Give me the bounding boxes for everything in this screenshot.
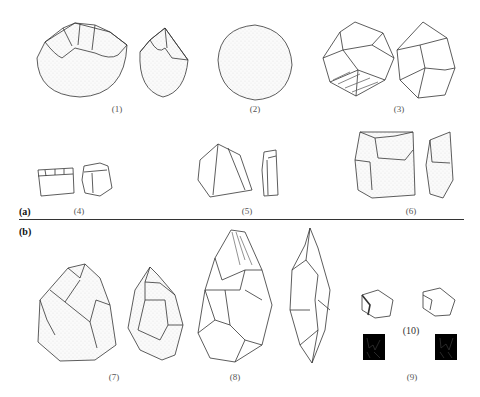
item-label-5: (5) <box>242 206 253 216</box>
item-label-6: (6) <box>406 206 417 216</box>
item-label-10: (10) <box>403 325 420 336</box>
panel-divider <box>19 219 464 220</box>
tool-5-flake <box>198 144 278 197</box>
tool-1-chopper <box>37 23 188 97</box>
panel-label-a: (a) <box>19 206 31 217</box>
item-label-3: (3) <box>394 104 405 114</box>
tool-7-handaxe <box>38 264 183 361</box>
item-label-7: (7) <box>109 372 120 382</box>
tool-8-handaxe <box>198 228 330 363</box>
stone-tools-figure: (1) (2) (3) (4) (5) (6) (7) (8) (9) (10)… <box>0 0 480 397</box>
panel-label-b: (b) <box>19 226 31 237</box>
tool-10-small-cores <box>362 288 455 318</box>
item-label-2: (2) <box>250 104 261 114</box>
item-label-4: (4) <box>74 206 85 216</box>
tool-9-small-blocks <box>363 334 457 360</box>
item-label-9: (9) <box>407 372 418 382</box>
tool-3-polyhedron <box>323 22 455 98</box>
tool-drawings <box>0 0 480 397</box>
tool-4-flake-tool <box>38 163 112 196</box>
item-label-1: (1) <box>112 104 123 114</box>
tool-6-scraper <box>355 132 453 198</box>
tool-2-spheroid <box>218 25 292 100</box>
item-label-8: (8) <box>230 372 241 382</box>
